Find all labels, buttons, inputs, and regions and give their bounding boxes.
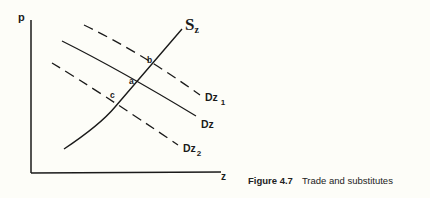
supply-label: Sz (185, 15, 199, 35)
demand-2-label: Dz2 (183, 142, 202, 158)
demand-curve-dz2 (52, 63, 178, 145)
figure-title: Trade and substitutes (302, 175, 393, 186)
figure-caption: Figure 4.7Trade and substitutes (248, 175, 393, 186)
supply-demand-diagram: p z Sz Dz1 Dz Dz2 b a c (0, 0, 430, 198)
x-axis-label: z (221, 171, 226, 182)
supply-curve-sz (64, 29, 182, 149)
axes: p z (18, 11, 226, 182)
demand-label: Dz (201, 118, 214, 130)
x-axis (31, 172, 221, 173)
figure-number: Figure 4.7 (248, 175, 293, 186)
demand-1-label: Dz1 (205, 91, 226, 107)
point-b-label: b (147, 55, 152, 65)
point-c-label: c (110, 90, 115, 100)
point-a-label: a (129, 76, 134, 86)
y-axis-label: p (18, 11, 25, 23)
